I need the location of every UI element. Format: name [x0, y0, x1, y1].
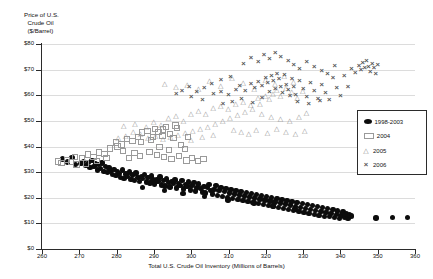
y-tick-label: $30 — [0, 168, 34, 174]
legend-marker-icon — [364, 119, 372, 124]
data-point: × — [324, 71, 331, 78]
data-point: × — [259, 95, 266, 102]
data-point: × — [199, 97, 206, 104]
legend-item[interactable]: ×2006 — [362, 159, 386, 172]
data-point: × — [311, 64, 318, 71]
data-point — [168, 136, 174, 141]
data-point — [154, 152, 160, 158]
data-point — [94, 158, 100, 164]
data-point — [268, 116, 274, 121]
y-tick-label: $40 — [0, 143, 34, 149]
chart-legend: 1998-20032004△2005×2006 — [357, 110, 427, 175]
data-point: × — [227, 74, 234, 81]
data-point: × — [240, 61, 247, 68]
data-point — [200, 156, 206, 162]
data-point: × — [303, 59, 310, 66]
data-point: × — [210, 91, 217, 98]
data-point — [181, 119, 187, 124]
data-point: × — [186, 84, 193, 91]
data-point — [220, 120, 226, 125]
x-tick-label: 260 — [29, 253, 55, 259]
data-point — [274, 127, 280, 132]
data-point — [143, 126, 149, 131]
data-point: × — [296, 66, 303, 73]
data-point: × — [247, 55, 254, 62]
data-point — [138, 139, 144, 145]
data-point — [278, 118, 284, 123]
data-point — [251, 200, 256, 205]
legend-marker-icon: × — [362, 161, 370, 169]
data-point — [405, 215, 410, 220]
data-point: × — [238, 96, 245, 103]
data-point — [270, 203, 275, 208]
data-point — [115, 137, 121, 142]
data-point — [121, 124, 127, 129]
legend-item[interactable]: △2005 — [362, 144, 386, 157]
y-tick-label: $70 — [0, 66, 34, 72]
data-point — [161, 154, 167, 160]
data-point — [188, 113, 194, 118]
data-point — [166, 147, 172, 153]
data-point — [246, 132, 252, 137]
data-point — [190, 130, 196, 135]
data-point: × — [201, 85, 208, 92]
data-point — [72, 154, 78, 160]
data-point — [130, 131, 136, 136]
data-point — [168, 156, 174, 162]
y-tick-label: $50 — [0, 117, 34, 123]
data-point: × — [337, 93, 344, 100]
data-point — [242, 110, 248, 115]
data-point — [235, 113, 241, 118]
y-tick-label: $0 — [0, 245, 34, 251]
data-point — [132, 122, 138, 127]
data-point — [373, 215, 378, 220]
data-point — [156, 144, 162, 150]
y-tick-label: $20 — [0, 194, 34, 200]
gridline — [42, 223, 415, 224]
data-point — [138, 133, 144, 138]
data-point — [226, 108, 232, 113]
legend-item[interactable]: 2004 — [362, 130, 390, 143]
data-point — [212, 123, 218, 128]
data-point: × — [331, 63, 338, 70]
data-point — [137, 153, 143, 159]
data-point: × — [341, 73, 348, 80]
data-point — [304, 112, 310, 117]
data-point — [293, 133, 299, 138]
data-point — [390, 215, 395, 220]
legend-item[interactable]: 1998-2003 — [362, 115, 403, 128]
data-point — [126, 155, 132, 161]
data-point — [211, 106, 217, 111]
legend-label: 2005 — [373, 148, 386, 154]
data-point — [211, 133, 217, 138]
data-point — [153, 134, 159, 139]
data-point — [166, 117, 172, 122]
data-point: × — [374, 62, 381, 69]
gridline — [42, 44, 415, 45]
data-point — [203, 112, 209, 117]
data-point: × — [372, 71, 379, 78]
data-point — [107, 145, 113, 151]
x-tick-label: 320 — [253, 253, 279, 259]
x-tick-label: 340 — [327, 253, 353, 259]
x-tick-label: 360 — [402, 253, 428, 259]
x-tick-label: 280 — [104, 253, 130, 259]
y-tick-label: $10 — [0, 219, 34, 225]
data-point — [283, 131, 289, 136]
data-point — [120, 148, 126, 154]
data-point — [123, 135, 129, 140]
data-point — [196, 109, 202, 114]
data-point: × — [255, 59, 262, 66]
data-point — [292, 206, 297, 211]
data-point — [103, 155, 109, 161]
data-point — [227, 117, 233, 122]
data-point — [180, 191, 185, 196]
data-point — [253, 129, 259, 134]
data-point: × — [326, 97, 333, 104]
data-point — [172, 122, 178, 128]
data-point — [302, 129, 308, 134]
data-point — [296, 116, 302, 121]
data-point: × — [208, 81, 215, 88]
data-point — [140, 185, 145, 190]
data-point — [199, 136, 205, 141]
